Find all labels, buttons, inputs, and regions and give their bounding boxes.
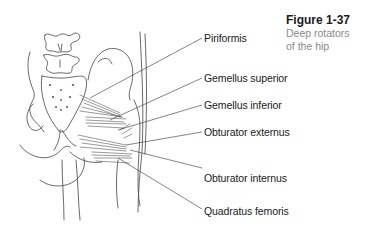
label-quadratus-femoris: Quadratus femoris — [204, 205, 289, 217]
figure-caption-line2: of the hip — [286, 40, 366, 53]
figure-caption: Deep rotators of the hip — [286, 27, 366, 53]
vertebrae-outline — [44, 33, 80, 73]
label-piriformis: Piriformis — [204, 32, 247, 44]
label-gemellus-superior: Gemellus superior — [204, 72, 288, 84]
label-gemellus-inferior: Gemellus inferior — [204, 99, 282, 111]
label-obturator-internus: Obturator internus — [204, 172, 287, 184]
right-ilium-outline — [88, 48, 133, 100]
figure-title: Figure 1-37 — [286, 13, 350, 27]
muscle-hatching — [78, 95, 132, 163]
label-obturator-externus: Obturator externus — [204, 126, 290, 138]
left-ilium-outline — [27, 52, 44, 132]
sacrum-outline — [41, 76, 86, 132]
figure-caption-line1: Deep rotators — [286, 27, 366, 40]
